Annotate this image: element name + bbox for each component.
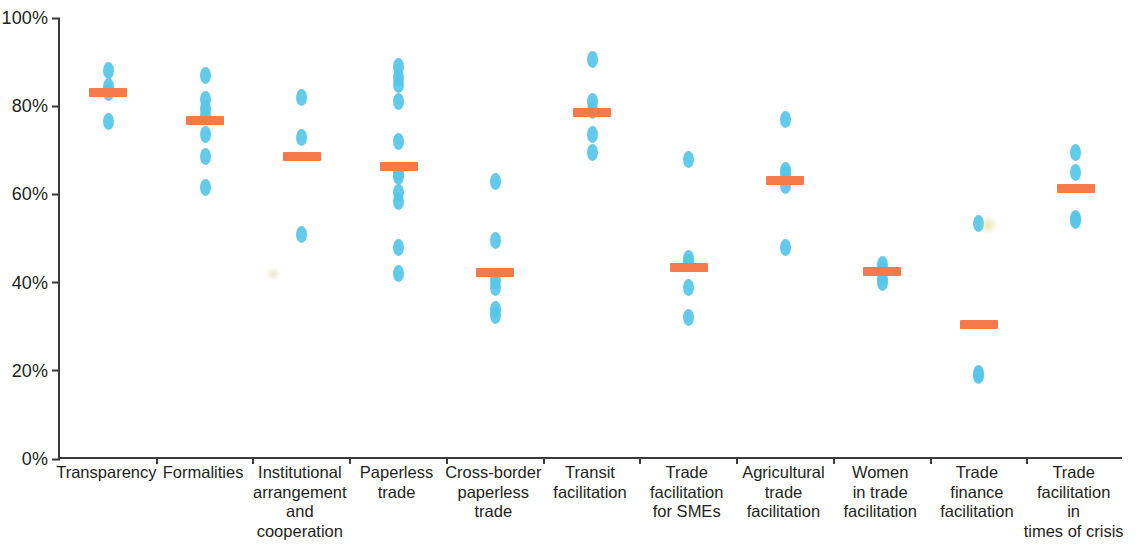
data-point [393,239,404,256]
x-axis-category-label: Transparency [51,463,162,483]
data-point [296,89,307,106]
data-point [490,279,501,296]
x-axis-category-label: Paperless trade [341,463,452,502]
scan-artifact-icon [264,268,282,280]
y-axis-tick: 20% [12,360,60,381]
data-point [587,51,598,68]
y-axis-tick: 40% [12,272,60,293]
data-point [200,148,211,165]
data-point [490,173,501,190]
data-point [393,93,404,110]
y-axis-tick-label: 0% [22,449,52,470]
average-marker [670,263,708,272]
data-point [877,274,888,291]
average-marker [89,88,127,97]
average-marker [766,176,804,185]
y-axis-tick-mark [52,105,60,107]
data-point [393,76,404,93]
data-point [1070,144,1081,161]
data-point [587,144,598,161]
average-marker [283,152,321,161]
x-axis-category-label: Formalities [148,463,259,483]
y-axis-tick: 100% [2,8,60,29]
y-axis-tick: 80% [12,96,60,117]
data-point [1070,164,1081,181]
y-axis-tick-label: 100% [2,8,52,29]
plot-area: 0%20%40%60%80%100% [58,18,1122,459]
average-marker [573,108,611,117]
average-marker [476,268,514,277]
y-axis-tick-label: 80% [12,96,52,117]
data-point [200,179,211,196]
x-axis-category-label: Cross-border paperless trade [438,463,549,522]
average-marker [863,267,901,276]
y-axis-tick-label: 40% [12,272,52,293]
average-marker [380,162,418,171]
y-axis-tick-label: 60% [12,184,52,205]
y-axis-tick-mark [52,17,60,19]
x-axis-category-label: Institutional arrangement and cooperatio… [244,463,355,541]
data-point [200,67,211,84]
data-point [103,113,114,130]
data-point [780,111,791,128]
data-point [200,126,211,143]
y-axis-tick-mark [52,458,60,460]
data-point [103,62,114,79]
data-point [683,279,694,296]
data-point [973,367,984,384]
data-point [683,151,694,168]
data-point [1070,212,1081,229]
data-point [490,232,501,249]
data-point [973,215,984,232]
average-marker [1057,184,1095,193]
data-point [683,309,694,326]
y-axis-tick-label: 20% [12,360,52,381]
y-axis-tick-mark [52,193,60,195]
data-point [296,129,307,146]
data-point [393,168,404,185]
average-marker [186,116,224,125]
x-axis-category-label: Trade finance facilitation [922,463,1033,522]
data-point [780,239,791,256]
x-axis-labels: TransparencyFormalitiesInstitutional arr… [58,463,1122,545]
x-axis-category-label: Agricultural trade facilitation [728,463,839,522]
x-axis-category-label: Transit facilitation [535,463,646,502]
x-axis-category-label: Trade facilitation for SMEs [631,463,742,522]
x-axis-category-label: Trade facilitation in times of crisis [1018,463,1129,541]
y-axis-tick: 60% [12,184,60,205]
data-point [296,226,307,243]
average-marker [960,320,998,329]
data-point [490,307,501,324]
implementation-rate-dot-chart: 0%20%40%60%80%100% TransparencyFormaliti… [0,0,1140,545]
y-axis-tick-mark [52,282,60,284]
data-point [587,126,598,143]
y-axis-tick-mark [52,370,60,372]
data-point [393,265,404,282]
data-point [393,193,404,210]
data-point [393,133,404,150]
x-axis-category-label: Women in trade facilitation [825,463,936,522]
